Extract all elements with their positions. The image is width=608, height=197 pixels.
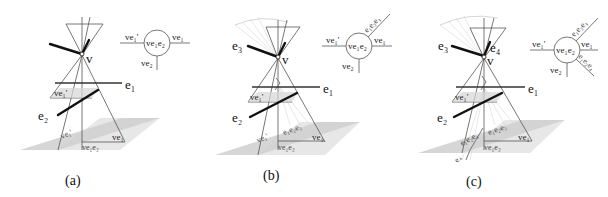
edge-e1-label: e₁ [528, 81, 538, 96]
plane-label-ve1prime: ve₁' [455, 92, 469, 102]
panel-caption-b: (b) [263, 168, 280, 184]
projected-path [275, 78, 280, 90]
node-center-label: ve₁e₂ [348, 41, 367, 51]
node-diagram-a: ve₁e₂ ve₁' ve₁ ve₂ [120, 30, 190, 70]
edge-e2-label: e₂ [38, 108, 48, 123]
node-center-label: ve₁e₂ [556, 45, 575, 55]
node-right-label: ve₁ [374, 35, 386, 45]
fan-arc [440, 16, 498, 25]
node-bottom-label: ve₂ [342, 61, 354, 71]
panel-b: v e₃ e₁ e₂ ve₁' ve₁' e₁e₂e₃ ve₁ ve₁e₂ ve… [215, 14, 392, 184]
panel-a: v e₁ e₂ ve₁' ve₁' ve₁ ve₁e₂ ve₁e₂ ve₁' v… [20, 17, 190, 189]
edge-e3-label: e₃ [232, 38, 242, 53]
vertex-label: v [487, 53, 494, 68]
node-left-label: ve₁' [532, 39, 546, 49]
node-right-label: ve₁ [581, 39, 593, 49]
node-center-label: ve₁e₂ [146, 38, 165, 48]
node-diagram-b: ve₁e₂ ve₁' ve₁ ve₂ e₁e₂e₃ [322, 14, 392, 73]
node-upper-right-label: e₁e₂e₃ [569, 18, 589, 38]
plane-label-ve1e2: ve₁e₂ [82, 143, 99, 152]
figure-canvas: v e₁ e₂ ve₁' ve₁' ve₁ ve₁e₂ ve₁e₂ ve₁' v… [0, 0, 608, 197]
edge-e3-label: e₃ [438, 38, 448, 53]
plane-label-ve1e2: ve₁e₂ [278, 143, 295, 152]
node-left-label: ve₁' [125, 32, 139, 42]
panel-caption-c: (c) [466, 174, 482, 190]
vertex-v [482, 55, 486, 59]
node-left-label: ve₁' [326, 35, 340, 45]
vertex-v [276, 55, 280, 59]
plane-label-e4: e₄ [452, 154, 463, 164]
plane-label-ve1: ve₁ [312, 132, 324, 142]
edge-e1-label: e₁ [323, 81, 333, 96]
node-bottom-label: ve₂ [550, 65, 562, 75]
node-bottom-label: ve₂ [141, 58, 153, 68]
fan-line [278, 85, 310, 125]
fan-line [448, 21, 484, 58]
plane-label-ve1prime: ve₁' [250, 92, 264, 102]
node-diagram-c: ve₁e₂ ve₁' ve₁ ve₂ e₁e₂e₃ e₁e₂e₄ [530, 18, 598, 77]
vertex-v [80, 52, 84, 56]
plane-label-ve1: ve₁ [112, 132, 124, 142]
fan-line [278, 85, 290, 125]
plane-label-ve1prime: ve₁' [54, 88, 68, 98]
vertex-label: v [86, 51, 93, 66]
panel-c: v e₃ e₄ e₁ e₂ ve₁' e₁e₂e₄ e₁e₂e₃ e₄ ve₁ … [418, 16, 598, 190]
vertex-label: v [282, 52, 289, 67]
edge-e4-label: e₄ [490, 40, 501, 55]
edge-e1-label: e₁ [125, 77, 135, 92]
node-right-label: ve₁ [172, 32, 184, 42]
panel-caption-a: (a) [65, 173, 81, 189]
edge-e2-label: e₂ [232, 110, 242, 125]
node-upper-right-label: e₁e₂e₃ [362, 14, 382, 34]
plane-label-ve1: ve₁ [518, 132, 530, 142]
rotation-fan [235, 17, 310, 125]
plane-label-ve1e2: ve₁e₂ [484, 143, 501, 152]
edge-e2-label: e₂ [437, 110, 447, 125]
